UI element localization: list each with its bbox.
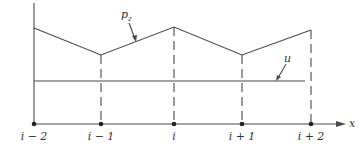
- svg-text:p: p: [121, 8, 128, 21]
- u-arrowhead-icon: [276, 75, 281, 81]
- node-label-i-plus-2: i + 2: [298, 130, 325, 143]
- node-dot-i-minus-1: [99, 122, 104, 127]
- x-axis-arrow-icon: [336, 121, 346, 127]
- node-label-i-minus-1: i − 1: [88, 130, 115, 143]
- node-label-i-plus-1: i + 1: [229, 130, 256, 143]
- diagram: x p z u i − 2 i − 1 i i + 1 i + 2: [0, 0, 359, 149]
- node-dot-i-plus-1: [240, 122, 245, 127]
- pz-label: p z: [121, 8, 132, 23]
- svg-text:z: z: [127, 15, 132, 23]
- x-axis-label: x: [349, 117, 356, 130]
- u-label: u: [284, 52, 291, 65]
- pz-curve: [34, 27, 311, 55]
- u-pointer-arrow: [278, 64, 286, 78]
- node-dot-i-minus-2: [32, 122, 37, 127]
- node-label-i-minus-2: i − 2: [21, 130, 48, 143]
- node-dot-i-plus-2: [309, 122, 314, 127]
- node-dot-i: [172, 122, 177, 127]
- node-label-i: i: [172, 130, 176, 143]
